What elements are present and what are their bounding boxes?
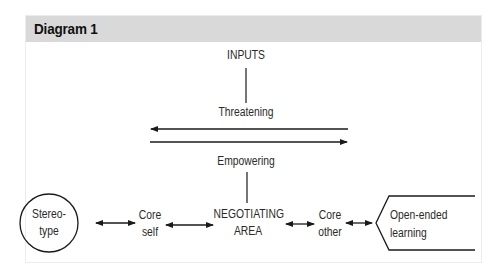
core-self-label-line1: Core <box>133 207 167 224</box>
negotiating-area-label-line2: AREA <box>214 223 283 240</box>
empowering-label: Empowering <box>212 153 281 170</box>
threatening-label: Threatening <box>212 104 281 121</box>
core-other-label-line1: Core <box>313 207 347 224</box>
open-ended-learning-label-line1: Open-ended <box>390 207 459 224</box>
stereotype-label-line1: Stereo- <box>28 206 71 223</box>
open-ended-learning-label-line2: learning <box>390 225 459 242</box>
stereotype-label-line2: type <box>28 223 71 240</box>
core-self-label-line2: self <box>133 224 167 241</box>
core-other-label-line2: other <box>313 224 347 241</box>
negotiating-area-label-line1: NEGOTIATING <box>214 206 283 223</box>
inputs-label: INPUTS <box>212 47 281 64</box>
